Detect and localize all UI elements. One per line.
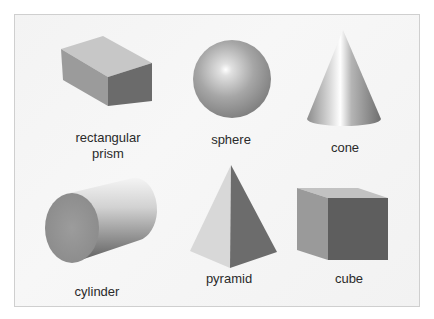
cone-label: cone <box>331 140 359 156</box>
cone-shape <box>307 30 381 126</box>
sphere-shape <box>193 40 271 118</box>
cube-shape <box>297 188 388 260</box>
pyramid-label: pyramid <box>206 271 252 287</box>
sphere-label: sphere <box>211 132 251 148</box>
cube-label: cube <box>335 271 363 287</box>
pyramid-shape <box>190 165 277 268</box>
cylinder-shape <box>45 178 157 263</box>
label-line: rectangular <box>75 130 140 146</box>
rectangular-prism-label: rectangular prism <box>75 130 140 162</box>
label-line: prism <box>75 146 140 162</box>
rectangular-prism-shape <box>61 36 152 106</box>
cylinder-label: cylinder <box>75 284 120 300</box>
